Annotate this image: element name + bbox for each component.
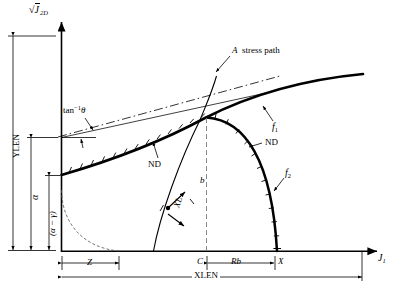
radical-icon: √ [29, 4, 35, 15]
b-label: b [200, 176, 205, 185]
alpha-label: α [30, 195, 40, 200]
stress-path-label: A stress path [232, 46, 280, 55]
ylen-label: YLEN [12, 134, 21, 158]
xlen-label: XLEN [192, 271, 220, 280]
c-label: C [197, 257, 203, 266]
tan-text: tan [63, 105, 74, 115]
stress-path-letter: A [232, 45, 238, 55]
nd-left-label: ND [148, 160, 161, 169]
f2-label: f2 [285, 168, 291, 180]
curve-stress-path [154, 76, 217, 251]
leader-lines [81, 56, 284, 191]
y-axis-label-sub: 2D [40, 9, 48, 16]
diagram-canvas [0, 0, 399, 290]
alpha-minus-gamma-label: (α − γ) [48, 211, 57, 236]
curve-f2 [207, 113, 282, 251]
f2-sub: 2 [288, 172, 291, 179]
nd-right-label: ND [265, 138, 278, 147]
f1-sub: 1 [275, 126, 278, 133]
xl-label-wrap: XL [167, 198, 189, 207]
curve-initial-cap [62, 190, 120, 251]
y-axis-label: √J2D [29, 5, 48, 17]
figure-container: √J2D J1 YLEN α (α − γ) tan−1θ A stress p… [0, 0, 399, 290]
xl-label: XL [172, 196, 184, 209]
stress-path-text: stress path [242, 45, 280, 55]
x-axis-label: J1 [378, 253, 386, 265]
tan-exponent: −1 [74, 104, 81, 111]
theta-symbol: θ [81, 105, 85, 115]
dimension-rb [207, 256, 275, 270]
line-secant [62, 93, 267, 138]
x-label: X [278, 257, 284, 266]
f1-label: f1 [272, 122, 278, 134]
x-axis-label-sub: 1 [382, 257, 385, 264]
axis-lines [62, 22, 378, 252]
rb-label: Rb [231, 257, 241, 266]
z-label: Z [87, 258, 92, 267]
tan-inverse-theta-label: tan−1θ [63, 105, 85, 115]
